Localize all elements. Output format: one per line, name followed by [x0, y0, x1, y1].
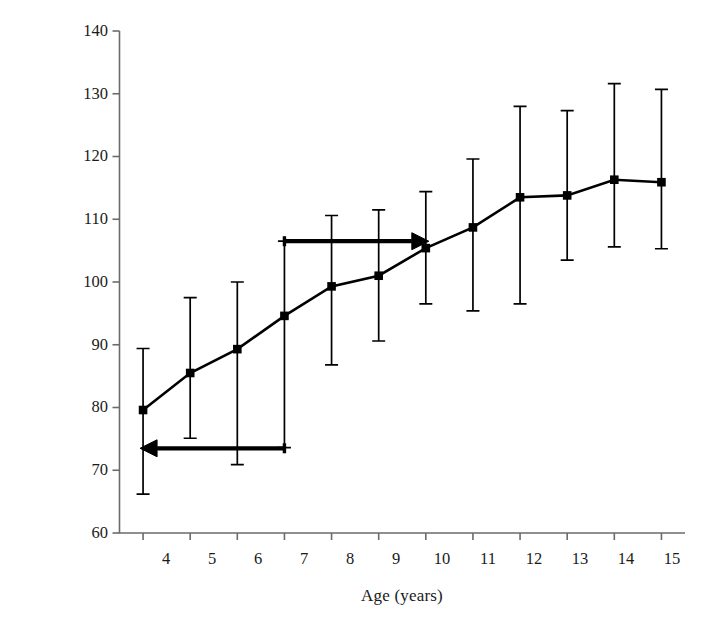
data-line — [143, 180, 661, 410]
axis-lines — [120, 31, 686, 533]
data-point-age-4 — [139, 406, 148, 415]
error-bar-age-13 — [561, 111, 574, 260]
data-point-age-9 — [374, 271, 383, 280]
x-axis-ticks — [143, 533, 661, 540]
upper-arrow — [284, 233, 428, 250]
axes — [113, 31, 686, 540]
error-bars — [137, 84, 668, 494]
data-point-age-7 — [280, 312, 289, 321]
error-bar-age-12 — [514, 106, 527, 304]
plot-area — [0, 0, 705, 637]
data-point-age-13 — [563, 191, 572, 200]
data-point-age-8 — [327, 282, 336, 291]
data-point-age-14 — [610, 175, 619, 184]
error-bar-age-5 — [184, 298, 197, 439]
error-bar-age-4 — [137, 349, 150, 495]
data-point-age-12 — [516, 193, 525, 202]
data-point-age-6 — [233, 345, 242, 354]
error-bar-age-15 — [655, 89, 668, 248]
error-bar-age-14 — [608, 84, 621, 247]
data-point-age-15 — [657, 178, 666, 187]
data-point-age-5 — [186, 369, 195, 378]
error-bar-age-7 — [278, 241, 291, 447]
data-point-age-11 — [469, 223, 478, 232]
error-bar-age-11 — [466, 159, 479, 311]
lower-arrow — [140, 440, 284, 457]
error-bar-age-6 — [231, 282, 244, 465]
data-point-age-10 — [422, 244, 431, 253]
y-axis-ticks — [113, 31, 120, 533]
chart-figure: Working memory performance Age (years) 1… — [0, 0, 705, 637]
data-markers — [139, 175, 666, 414]
